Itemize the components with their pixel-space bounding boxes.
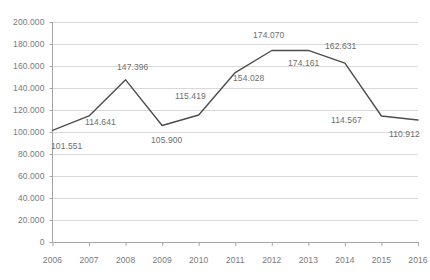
- y-axis-tick-label: 80.000: [0, 149, 45, 159]
- y-axis-tick-label: 180.000: [0, 39, 45, 49]
- x-axis-tick-label: 2009: [144, 255, 180, 265]
- data-point-label: 105.900: [151, 135, 182, 145]
- y-axis-tick-label: 60.000: [0, 171, 45, 181]
- data-point-label: 147.396: [117, 62, 148, 72]
- x-axis-tick-label: 2013: [290, 255, 326, 265]
- data-point-label: 101.551: [51, 141, 82, 151]
- y-axis-tick-label: 200.000: [0, 17, 45, 27]
- line-chart: 020.00040.00060.00080.000100.000120.0001…: [0, 0, 430, 280]
- data-point-label: 154.028: [233, 73, 264, 83]
- data-point-label: 174.161: [288, 58, 319, 68]
- x-axis-tick-label: 2006: [35, 255, 71, 265]
- x-axis-tick-label: 2008: [108, 255, 144, 265]
- x-axis-tick-label: 2012: [254, 255, 290, 265]
- data-point-label: 115.419: [175, 91, 206, 101]
- x-axis-tick-label: 2015: [363, 255, 399, 265]
- data-point-label: 110.912: [389, 129, 420, 139]
- y-axis-tick-label: 120.000: [0, 105, 45, 115]
- x-axis-tick-label: 2011: [217, 255, 253, 265]
- data-point-label: 114.567: [331, 115, 362, 125]
- x-axis-tick-label: 2007: [71, 255, 107, 265]
- data-point-label: 162.631: [325, 41, 356, 51]
- y-axis-tick-label: 140.000: [0, 83, 45, 93]
- data-point-label: 114.641: [85, 117, 116, 127]
- y-axis-tick-label: 0: [0, 237, 45, 247]
- y-axis-tick-label: 100.000: [0, 127, 45, 137]
- y-axis-tick-label: 40.000: [0, 193, 45, 203]
- chart-canvas: [0, 0, 430, 280]
- y-axis-tick-label: 160.000: [0, 61, 45, 71]
- x-axis-tick-label: 2010: [181, 255, 217, 265]
- x-axis-tick-label: 2014: [327, 255, 363, 265]
- data-point-label: 174.070: [253, 30, 284, 40]
- x-axis-tick-label: 2016: [400, 255, 430, 265]
- y-axis-tick-label: 20.000: [0, 215, 45, 225]
